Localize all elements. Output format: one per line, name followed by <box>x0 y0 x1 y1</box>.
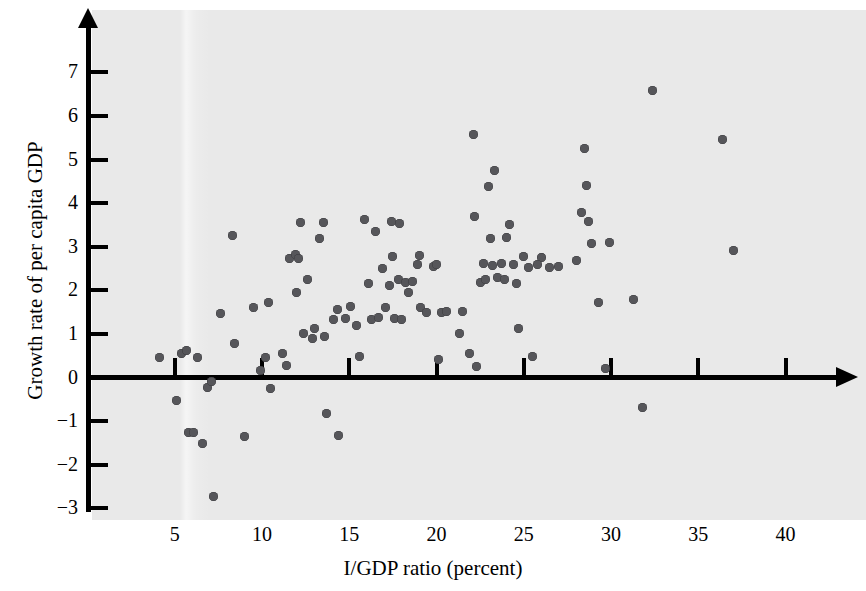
data-point <box>189 428 198 437</box>
data-point <box>320 332 329 341</box>
y-axis-tick <box>91 288 108 292</box>
data-point <box>299 329 308 338</box>
data-point <box>303 275 312 284</box>
data-point <box>505 220 514 229</box>
x-axis-tick <box>784 358 788 376</box>
data-point <box>341 314 350 323</box>
y-axis-tick <box>91 158 108 162</box>
data-point <box>408 277 417 286</box>
y-axis-tick <box>91 201 108 205</box>
data-point <box>545 263 554 272</box>
data-point <box>240 432 249 441</box>
y-axis-tick <box>91 332 108 336</box>
x-axis-tick-label: 5 <box>150 524 200 544</box>
x-axis-tick-label: 15 <box>324 524 374 544</box>
data-point <box>572 256 581 265</box>
plot-area: 76543210−1−2−3 510152025303540 <box>0 0 866 591</box>
data-point <box>378 264 387 273</box>
data-point <box>355 352 364 361</box>
y-axis-tick-label-text: 1 <box>48 323 78 343</box>
data-point <box>472 362 481 371</box>
y-axis-tick <box>91 463 108 467</box>
data-point <box>385 281 394 290</box>
data-point <box>582 181 591 190</box>
data-point <box>458 307 467 316</box>
data-point <box>207 377 216 386</box>
data-point <box>514 324 523 333</box>
data-point <box>282 361 291 370</box>
x-axis-title: I/GDP ratio (percent) <box>0 556 866 581</box>
data-point <box>465 349 474 358</box>
data-point <box>278 349 287 358</box>
y-axis-tick-label-text: −2 <box>48 454 78 474</box>
data-point <box>470 212 479 221</box>
data-point <box>310 324 319 333</box>
x-axis-tick-label: 35 <box>673 524 723 544</box>
data-point <box>500 275 509 284</box>
x-axis-tick <box>696 358 700 376</box>
data-point <box>469 130 478 139</box>
data-point <box>519 252 528 261</box>
y-axis-arrow-icon <box>78 8 98 28</box>
x-axis-line <box>86 375 838 380</box>
data-point <box>198 439 207 448</box>
y-axis-tick <box>91 114 108 118</box>
x-axis-tick <box>347 358 351 376</box>
y-axis-title: Growth rate of per capita GDP <box>23 31 48 511</box>
data-point <box>638 403 647 412</box>
data-point <box>292 288 301 297</box>
data-point <box>432 260 441 269</box>
data-point <box>490 166 499 175</box>
data-point <box>533 260 542 269</box>
x-axis-arrow-icon <box>836 367 858 387</box>
data-point <box>577 208 586 217</box>
data-point <box>479 259 488 268</box>
data-point <box>228 231 237 240</box>
data-point <box>261 353 270 362</box>
data-point <box>296 218 305 227</box>
data-point <box>415 251 424 260</box>
y-axis-tick <box>91 245 108 249</box>
data-point <box>488 261 497 270</box>
data-point <box>334 431 343 440</box>
data-point <box>512 279 521 288</box>
data-point <box>216 309 225 318</box>
data-point <box>455 329 464 338</box>
x-axis-tick-label: 30 <box>586 524 636 544</box>
data-point <box>442 307 451 316</box>
data-point <box>486 234 495 243</box>
y-axis-tick <box>91 506 108 510</box>
x-axis-tick-label: 20 <box>412 524 462 544</box>
data-point <box>352 321 361 330</box>
y-axis-tick-label-text: 2 <box>48 279 78 299</box>
data-point <box>484 182 493 191</box>
x-axis-tick-label: 25 <box>499 524 549 544</box>
data-point <box>374 313 383 322</box>
data-point <box>528 352 537 361</box>
data-point <box>524 263 533 272</box>
data-point <box>387 217 396 226</box>
data-point <box>729 246 738 255</box>
data-point <box>594 298 603 307</box>
data-point <box>322 409 331 418</box>
data-point <box>629 295 638 304</box>
data-point <box>155 353 164 362</box>
data-point <box>388 252 397 261</box>
data-point <box>360 215 369 224</box>
data-point <box>497 259 506 268</box>
x-axis-tick-label: 40 <box>761 524 811 544</box>
data-point <box>172 396 181 405</box>
data-point <box>509 260 518 269</box>
data-point <box>718 135 727 144</box>
x-axis-tick <box>522 358 526 376</box>
y-axis-tick-label-text: −1 <box>48 410 78 430</box>
data-point <box>481 275 490 284</box>
data-point <box>264 298 273 307</box>
data-point <box>502 233 511 242</box>
y-axis-tick-label-text: 6 <box>48 105 78 125</box>
y-axis-tick-label-text: 7 <box>48 61 78 81</box>
data-point <box>580 144 589 153</box>
data-point <box>266 384 275 393</box>
x-axis-tick-label: 10 <box>237 524 287 544</box>
data-point <box>371 227 380 236</box>
